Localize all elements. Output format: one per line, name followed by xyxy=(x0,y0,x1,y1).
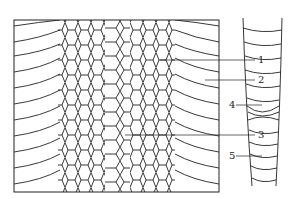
label-4: 4 xyxy=(229,100,235,110)
label-3: 3 xyxy=(258,130,264,140)
scale-diagram xyxy=(0,0,294,199)
label-5: 5 xyxy=(229,151,235,161)
ventral-strip xyxy=(243,18,282,186)
label-1: 1 xyxy=(258,55,264,65)
dorsal-panel xyxy=(14,20,219,192)
label-2: 2 xyxy=(258,75,264,85)
